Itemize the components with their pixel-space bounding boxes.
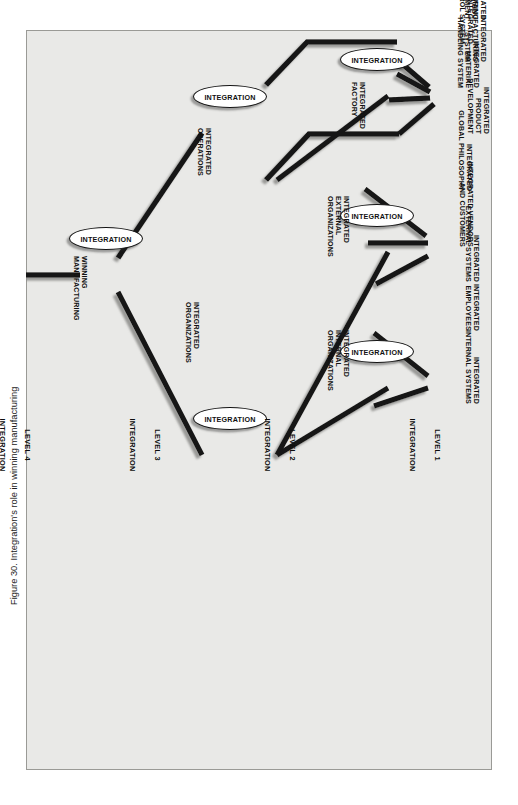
- level-3-line2: INTEGRATION: [128, 400, 136, 490]
- node-operations[interactable]: INTEGRATION: [193, 85, 267, 108]
- edge-material-handling: [389, 98, 430, 100]
- figure-page: INTEGRATION INTEGRATION INTEGRATION INTE…: [0, 0, 518, 805]
- node-factory-label: INTEGRATION: [351, 55, 402, 64]
- label-integrated-external-organizations: INTEGRATED EXTERNAL ORGANIZATIONS: [326, 196, 350, 296]
- rotated-figure-container: INTEGRATION INTEGRATION INTEGRATION INTE…: [0, 0, 518, 805]
- level-2-line1: LEVEL 2: [288, 400, 296, 490]
- label-winning-manufacturing: WINNING MANUFACTURING: [72, 256, 88, 366]
- node-winning[interactable]: INTEGRATION: [69, 227, 143, 250]
- level-1-line2: INTEGRATION: [408, 400, 416, 490]
- level-1-heading: LEVEL 1 INTEGRATION: [391, 400, 458, 490]
- node-external-org[interactable]: INTEGRATION: [340, 204, 414, 227]
- edge-product-development: [399, 104, 434, 134]
- level-3-heading: LEVEL 3 INTEGRATION: [111, 400, 178, 490]
- level-3-line1: LEVEL 3: [153, 400, 161, 490]
- node-operations-label: INTEGRATION: [204, 92, 255, 101]
- label-integrated-internal-organizations: INTEGRATED INTERNAL ORGANIZATIONS: [326, 330, 350, 430]
- figure-caption-area: Figure 30. Integration's role in winning…: [0, 0, 30, 805]
- label-integrated-organizations: INTEGRATED ORGANIZATIONS: [184, 302, 200, 402]
- edge-factory-to-operations: [277, 96, 388, 180]
- node-factory[interactable]: INTEGRATION: [340, 48, 414, 71]
- label-integrated-manufacturing-management: INTEGRATED MANUFACTURING MANAGEMENT: [463, 0, 487, 20]
- node-winning-label: INTEGRATION: [80, 234, 131, 243]
- node-internal-org-label: INTEGRATION: [351, 347, 402, 356]
- node-external-org-label: INTEGRATION: [351, 211, 402, 220]
- level-2-heading: LEVEL 2 INTEGRATION: [246, 400, 313, 490]
- level-1-line1: LEVEL 1: [433, 400, 441, 490]
- figure-caption: Figure 30. Integration's role in winning…: [9, 387, 19, 605]
- node-internal-org[interactable]: INTEGRATION: [340, 340, 414, 363]
- label-integrated-factory: INTEGRATED FACTORY: [350, 82, 366, 182]
- level-2-line2: INTEGRATION: [263, 400, 271, 490]
- label-integrated-operations: INTEGRATED OPERATIONS: [196, 128, 212, 228]
